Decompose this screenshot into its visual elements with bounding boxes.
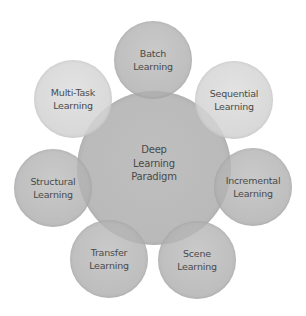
node-label: Transfer Learning bbox=[89, 246, 129, 272]
node-label: Scene Learning bbox=[177, 247, 217, 273]
node-label: Sequential Learning bbox=[210, 87, 259, 113]
node-multi-task-learning: Multi-Task Learning bbox=[34, 60, 112, 138]
node-sequential-learning: Sequential Learning bbox=[195, 61, 273, 139]
node-structural-learning: Structural Learning bbox=[14, 149, 92, 227]
center-node-label: Deep Learning Paradigm bbox=[131, 143, 177, 184]
node-label: Batch Learning bbox=[133, 47, 173, 73]
node-label: Multi-Task Learning bbox=[51, 86, 95, 112]
node-incremental-learning: Incremental Learning bbox=[214, 148, 292, 226]
node-batch-learning: Batch Learning bbox=[114, 21, 192, 99]
node-label: Structural Learning bbox=[30, 175, 75, 201]
node-transfer-learning: Transfer Learning bbox=[70, 220, 148, 298]
node-label: Incremental Learning bbox=[226, 174, 281, 200]
diagram-canvas: Deep Learning Paradigm Batch Learning Se… bbox=[0, 0, 306, 316]
node-scene-learning: Scene Learning bbox=[158, 221, 236, 299]
